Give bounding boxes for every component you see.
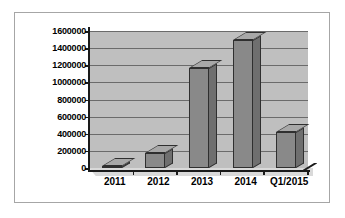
y-axis-tick-label: 200000 — [57, 146, 86, 156]
chart-frame: 0200000400000600000800000100000012000001… — [14, 12, 330, 203]
y-axis-tick-label: 400000 — [57, 129, 86, 139]
y-axis-line — [88, 27, 90, 172]
gridline — [90, 31, 308, 32]
y-axis-tick-label: 600000 — [57, 112, 86, 122]
x-axis-depth-edge — [303, 163, 317, 172]
bar-side-face — [209, 63, 217, 168]
bar-front-face — [276, 132, 296, 168]
bar-top-face — [276, 124, 309, 132]
bar — [145, 153, 165, 168]
x-tick-mark — [176, 171, 178, 175]
plot-area: 0200000400000600000800000100000012000001… — [89, 31, 308, 168]
y-axis-tick-label: 1600000 — [52, 26, 86, 36]
y-axis-tick-label: 1400000 — [52, 43, 86, 53]
x-axis-tick-label: 2012 — [147, 176, 169, 187]
bar — [276, 132, 296, 168]
bar-side-face — [253, 36, 261, 168]
y-axis-tick-label: 1200000 — [52, 60, 86, 70]
bar — [233, 40, 253, 168]
x-axis-tick-label: 2011 — [104, 176, 126, 187]
bar-front-face — [145, 153, 165, 168]
gridline — [90, 48, 308, 49]
x-axis-tick-label: Q1/2015 — [270, 176, 308, 187]
y-axis-tick-label: 0 — [81, 163, 86, 173]
bar — [189, 68, 209, 168]
bar-front-face — [189, 68, 209, 168]
y-axis-tick-label: 1000000 — [52, 77, 86, 87]
x-tick-mark — [307, 171, 309, 175]
x-tick-mark — [133, 171, 135, 175]
bar — [102, 166, 122, 168]
y-axis-tick-label: 800000 — [57, 95, 86, 105]
x-tick-mark — [220, 171, 222, 175]
bar-side-face — [296, 127, 304, 168]
x-axis-tick-label: 2013 — [191, 176, 213, 187]
x-axis-line — [88, 170, 310, 172]
bar-top-face — [189, 60, 222, 68]
bar-front-face — [102, 166, 122, 168]
bar-chart: 0200000400000600000800000100000012000001… — [15, 13, 329, 202]
x-axis-tick-label: 2014 — [234, 176, 256, 187]
x-tick-mark — [263, 171, 265, 175]
bar-front-face — [233, 40, 253, 168]
